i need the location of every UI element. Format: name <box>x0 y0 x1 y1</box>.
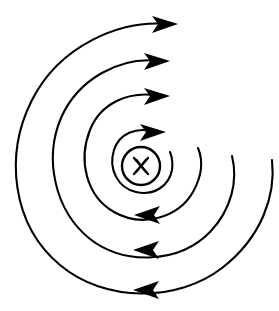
return-arrow-3-arrowhead-icon <box>133 281 159 299</box>
return-arrow-1-arrowhead-icon <box>134 206 160 224</box>
wire-x-symbol: X <box>134 154 148 177</box>
magnetic-field-diagram: X X Magnetic field lines around a curren… <box>0 0 279 311</box>
field-line-2-arrowhead-icon <box>144 88 170 105</box>
field-line-1-arrowhead-icon <box>140 124 166 141</box>
field-line-3-arrowhead-icon <box>144 53 170 70</box>
field-line-canvas: X <box>0 0 279 311</box>
